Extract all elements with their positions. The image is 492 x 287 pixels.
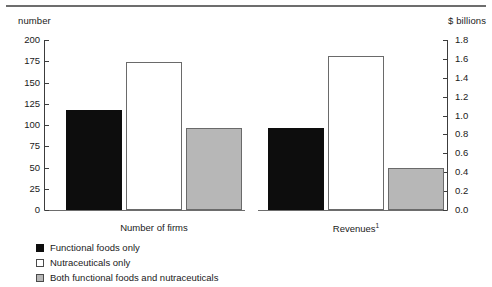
legend-swatch-black: [36, 244, 44, 252]
left-axis-tick: [45, 83, 49, 84]
legend-label: Nutraceuticals only: [50, 257, 130, 268]
group-label-text: Revenues: [333, 223, 376, 234]
legend-item: Both functional foods and nutraceuticals: [36, 270, 476, 285]
legend-swatch-gray: [36, 274, 44, 282]
legend-swatch-white: [36, 259, 44, 267]
right-axis-tick-label: 0.2: [455, 186, 468, 196]
left-axis-tick: [45, 146, 49, 147]
left-axis-tick-label: 200: [14, 35, 40, 45]
legend-item: Nutraceuticals only: [36, 255, 476, 270]
left-axis-tick-label: 100: [14, 120, 40, 130]
bar: [388, 168, 444, 210]
right-axis-spine: [447, 40, 448, 211]
legend-item: Functional foods only: [36, 240, 476, 255]
bar: [328, 56, 384, 210]
right-axis-tick: [443, 97, 447, 98]
right-axis-tick: [443, 40, 447, 41]
right-axis-tick-label: 1.4: [455, 73, 468, 83]
left-axis-tick: [45, 125, 49, 126]
bar: [268, 128, 324, 210]
right-axis-tick: [443, 210, 447, 211]
legend-label: Both functional foods and nutraceuticals: [50, 272, 218, 283]
left-axis-tick-label: 0: [14, 205, 40, 215]
bar: [66, 110, 122, 210]
right-axis-tick-label: 1.0: [455, 111, 468, 121]
right-axis-tick-label: 1.6: [455, 54, 468, 64]
left-axis-tick-label: 150: [14, 78, 40, 88]
chart-legend: Functional foods onlyNutraceuticals only…: [36, 240, 476, 285]
right-axis-tick: [443, 153, 447, 154]
right-axis-tick-label: 1.8: [455, 35, 468, 45]
left-axis-tick-label: 25: [14, 184, 40, 194]
right-axis-tick-label: 0.8: [455, 129, 468, 139]
left-axis-tick: [45, 189, 49, 190]
right-axis-tick: [443, 116, 447, 117]
group-label-text: Number of firms: [120, 222, 188, 233]
right-axis-tick: [443, 59, 447, 60]
left-axis-tick-label: 75: [14, 141, 40, 151]
group-label: Revenues1: [268, 222, 444, 234]
right-axis-tick-label: 0.4: [455, 167, 468, 177]
left-axis-tick: [45, 40, 49, 41]
bar: [126, 62, 182, 210]
right-axis-tick-label: 0.6: [455, 148, 468, 158]
legend-label: Functional foods only: [50, 242, 140, 253]
right-axis-tick: [443, 134, 447, 135]
left-axis-tick-label: 50: [14, 163, 40, 173]
left-axis-tick-label: 175: [14, 56, 40, 66]
chart-plot-area: 0255075100125150175200 0.00.20.40.60.81.…: [0, 0, 492, 215]
right-axis-tick: [443, 78, 447, 79]
left-axis-tick: [45, 210, 49, 211]
right-axis-tick-label: 0.0: [455, 205, 468, 215]
left-axis-tick: [45, 104, 49, 105]
right-axis-tick-label: 1.2: [455, 92, 468, 102]
bar: [186, 128, 242, 210]
baseline-right-group: [258, 210, 448, 211]
baseline-left-group: [44, 210, 245, 211]
footnote-marker: 1: [376, 222, 380, 229]
left-axis-tick: [45, 61, 49, 62]
left-axis-tick-label: 125: [14, 99, 40, 109]
group-label: Number of firms: [66, 222, 242, 233]
left-axis-tick: [45, 168, 49, 169]
